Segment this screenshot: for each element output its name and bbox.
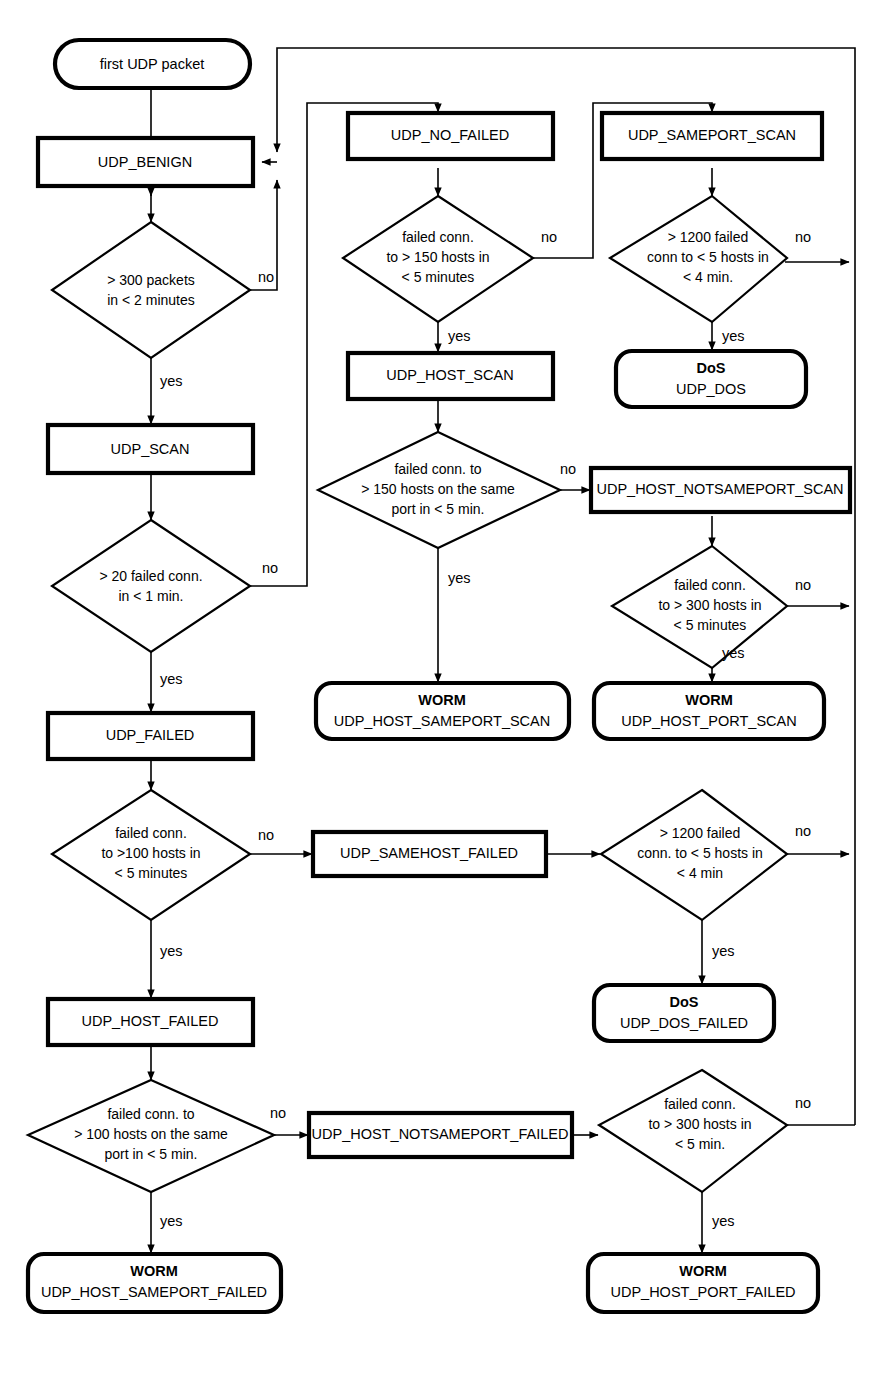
node-worm-host-sameport-scan-sub: UDP_HOST_SAMEPORT_SCAN xyxy=(334,713,550,729)
node-d-20failed[interactable]: > 20 failed conn. in < 1 min. xyxy=(52,520,250,652)
edge-label-no-d100sameport: no xyxy=(270,1105,286,1121)
node-worm-host-sameport-failed-sub: UDP_HOST_SAMEPORT_FAILED xyxy=(41,1284,267,1300)
node-d-300hosts-scan-line1: failed conn. xyxy=(674,577,746,593)
node-worm-host-sameport-scan-label: WORM xyxy=(418,692,466,708)
node-udp-benign[interactable]: UDP_BENIGN xyxy=(38,138,253,186)
node-dos-sub: UDP_DOS xyxy=(676,381,746,397)
node-d-1200failed-a-line1: > 1200 failed xyxy=(668,229,749,245)
edge-label-no-d1200a: no xyxy=(795,229,811,245)
edge-label-yes-d100sameport: yes xyxy=(160,1213,183,1229)
node-d-150sameport[interactable]: failed conn. to > 150 hosts on the same … xyxy=(318,432,560,548)
node-worm-host-port-failed-sub: UDP_HOST_PORT_FAILED xyxy=(610,1284,795,1300)
node-d-20failed-line2: in < 1 min. xyxy=(119,588,184,604)
node-udp-failed[interactable]: UDP_FAILED xyxy=(48,713,253,759)
edge-label-no-d300failed: no xyxy=(795,1095,811,1111)
node-udp-host-notsameport-scan-label: UDP_HOST_NOTSAMEPORT_SCAN xyxy=(596,481,843,497)
flowchart-svg: first UDP packet UDP_BENIGN > 300 packet… xyxy=(0,0,895,1379)
node-d-20failed-line1: > 20 failed conn. xyxy=(99,568,202,584)
edge-label-no-d20failed: no xyxy=(262,560,278,576)
node-d-100sameport[interactable]: failed conn. to > 100 hosts on the same … xyxy=(28,1080,274,1192)
node-start[interactable]: first UDP packet xyxy=(55,40,250,88)
node-d-100sameport-line3: port in < 5 min. xyxy=(105,1146,198,1162)
node-d-100hosts-line2: to >100 hosts in xyxy=(101,845,200,861)
node-start-label: first UDP packet xyxy=(100,56,205,72)
node-udp-scan[interactable]: UDP_SCAN xyxy=(48,425,253,473)
node-d-100hosts-line1: failed conn. xyxy=(115,825,187,841)
node-d-100sameport-line2: > 100 hosts on the same xyxy=(74,1126,228,1142)
node-d-1200failed-b-line3: < 4 min xyxy=(677,865,723,881)
edge-label-no-d150hosts: no xyxy=(541,229,557,245)
node-d-1200failed-a-line2: conn to < 5 hosts in xyxy=(647,249,769,265)
node-worm-host-sameport-scan[interactable]: WORM UDP_HOST_SAMEPORT_SCAN xyxy=(316,683,569,739)
node-udp-no-failed-label: UDP_NO_FAILED xyxy=(391,127,509,143)
edge-label-yes-d300scan: yes xyxy=(722,645,745,661)
edge-label-no-d300packets: no xyxy=(258,269,274,285)
edge-label-yes-d300failed: yes xyxy=(712,1213,735,1229)
node-udp-host-failed-label: UDP_HOST_FAILED xyxy=(82,1013,219,1029)
edge-label-yes-d150sameport: yes xyxy=(448,570,471,586)
edge-label-yes-d1200b: yes xyxy=(712,943,735,959)
node-worm-host-port-scan-label: WORM xyxy=(685,692,733,708)
node-worm-host-port-scan-sub: UDP_HOST_PORT_SCAN xyxy=(621,713,796,729)
node-d-300hosts-failed-line1: failed conn. xyxy=(664,1096,736,1112)
node-d-300packets-line1: > 300 packets xyxy=(107,272,195,288)
node-d-1200failed-a[interactable]: > 1200 failed conn to < 5 hosts in < 4 m… xyxy=(610,196,787,322)
node-udp-failed-label: UDP_FAILED xyxy=(106,727,195,743)
node-udp-scan-label: UDP_SCAN xyxy=(111,441,190,457)
edge-label-no-d100hosts: no xyxy=(258,827,274,843)
node-d-150sameport-line3: port in < 5 min. xyxy=(392,501,485,517)
node-udp-no-failed[interactable]: UDP_NO_FAILED xyxy=(348,113,553,159)
node-udp-host-notsameport-failed-label: UDP_HOST_NOTSAMEPORT_FAILED xyxy=(312,1126,569,1142)
node-d-300hosts-scan-line2: to > 300 hosts in xyxy=(658,597,761,613)
node-udp-host-notsameport-failed[interactable]: UDP_HOST_NOTSAMEPORT_FAILED xyxy=(309,1113,572,1157)
node-udp-host-notsameport-scan[interactable]: UDP_HOST_NOTSAMEPORT_SCAN xyxy=(591,468,850,512)
node-worm-host-sameport-failed[interactable]: WORM UDP_HOST_SAMEPORT_FAILED xyxy=(28,1254,281,1312)
node-dos-failed-sub: UDP_DOS_FAILED xyxy=(620,1015,748,1031)
node-d-300packets-line2: in < 2 minutes xyxy=(107,292,195,308)
node-d-150hosts-line3: < 5 minutes xyxy=(402,269,475,285)
node-dos-failed-label: DoS xyxy=(670,994,699,1010)
node-dos-failed[interactable]: DoS UDP_DOS_FAILED xyxy=(594,985,774,1041)
node-udp-samehost-failed[interactable]: UDP_SAMEHOST_FAILED xyxy=(313,832,546,876)
node-d-150hosts-line2: to > 150 hosts in xyxy=(386,249,489,265)
edge-feedback-bus-to-benign xyxy=(277,48,855,1125)
node-worm-host-port-scan[interactable]: WORM UDP_HOST_PORT_SCAN xyxy=(594,683,824,739)
node-udp-sameport-scan-label: UDP_SAMEPORT_SCAN xyxy=(628,127,796,143)
edge-label-no-d150sameport: no xyxy=(560,461,576,477)
node-d-1200failed-b[interactable]: > 1200 failed conn. to < 5 hosts in < 4 … xyxy=(601,790,787,920)
node-udp-samehost-failed-label: UDP_SAMEHOST_FAILED xyxy=(340,845,518,861)
node-worm-host-port-failed-label: WORM xyxy=(679,1263,727,1279)
node-udp-host-scan[interactable]: UDP_HOST_SCAN xyxy=(348,353,553,399)
node-d-150sameport-line2: > 150 hosts on the same xyxy=(361,481,515,497)
edge-label-yes-d300packets: yes xyxy=(160,373,183,389)
edge-label-yes-d1200a: yes xyxy=(722,328,745,344)
node-udp-sameport-scan[interactable]: UDP_SAMEPORT_SCAN xyxy=(602,113,822,159)
node-dos[interactable]: DoS UDP_DOS xyxy=(616,351,806,407)
edge-label-yes-d150hosts: yes xyxy=(448,328,471,344)
node-d-100hosts[interactable]: failed conn. to >100 hosts in < 5 minute… xyxy=(52,790,250,920)
node-d-100hosts-line3: < 5 minutes xyxy=(115,865,188,881)
node-d-300hosts-scan-line3: < 5 minutes xyxy=(674,617,747,633)
node-d-150sameport-line1: failed conn. to xyxy=(394,461,481,477)
node-d-1200failed-b-line1: > 1200 failed xyxy=(660,825,741,841)
node-d-1200failed-a-line3: < 4 min. xyxy=(683,269,733,285)
node-worm-host-port-failed[interactable]: WORM UDP_HOST_PORT_FAILED xyxy=(588,1254,818,1312)
edge-label-yes-d100hosts: yes xyxy=(160,943,183,959)
node-dos-label: DoS xyxy=(697,360,726,376)
edge-label-yes-d20failed: yes xyxy=(160,671,183,687)
node-d-300hosts-scan[interactable]: failed conn. to > 300 hosts in < 5 minut… xyxy=(612,546,787,668)
flowchart-canvas: first UDP packet UDP_BENIGN > 300 packet… xyxy=(0,0,895,1379)
node-udp-host-failed[interactable]: UDP_HOST_FAILED xyxy=(48,999,253,1045)
node-d-300hosts-failed-line3: < 5 min. xyxy=(675,1136,725,1152)
node-d-1200failed-b-line2: conn. to < 5 hosts in xyxy=(637,845,763,861)
node-udp-benign-label: UDP_BENIGN xyxy=(98,154,192,170)
node-d-150hosts[interactable]: failed conn. to > 150 hosts in < 5 minut… xyxy=(343,196,533,322)
node-d-300hosts-failed[interactable]: failed conn. to > 300 hosts in < 5 min. xyxy=(599,1070,787,1192)
node-d-100sameport-line1: failed conn. to xyxy=(107,1106,194,1122)
node-d-300hosts-failed-line2: to > 300 hosts in xyxy=(648,1116,751,1132)
node-d-150hosts-line1: failed conn. xyxy=(402,229,474,245)
edge-label-no-d300scan: no xyxy=(795,577,811,593)
node-udp-host-scan-label: UDP_HOST_SCAN xyxy=(386,367,513,383)
edge-label-no-d1200b: no xyxy=(795,823,811,839)
node-d-300packets[interactable]: > 300 packets in < 2 minutes xyxy=(52,222,250,358)
